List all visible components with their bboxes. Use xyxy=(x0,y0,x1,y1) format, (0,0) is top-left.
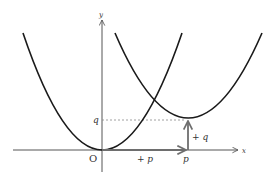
origin-label: O xyxy=(89,153,97,164)
translated-parabola xyxy=(115,33,262,118)
parabola-translation-diagram: y x O q p + p + q xyxy=(0,0,274,180)
vertical-shift-label: + q xyxy=(192,132,208,142)
p-axis-label: p xyxy=(183,154,189,164)
horizontal-shift-label: + p xyxy=(137,154,153,164)
q-axis-label: q xyxy=(93,115,99,125)
y-axis-label: y xyxy=(98,11,104,19)
x-axis-label: x xyxy=(242,147,246,155)
